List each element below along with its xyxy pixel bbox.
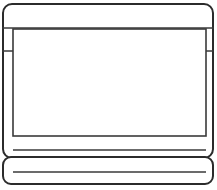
- drawing-canvas: Appliance Front Elevation Line Drawing M…: [0, 0, 217, 190]
- base-plinth-outline: [3, 157, 213, 184]
- inner-panel-window: [13, 29, 206, 136]
- line-art-figure: [0, 0, 217, 190]
